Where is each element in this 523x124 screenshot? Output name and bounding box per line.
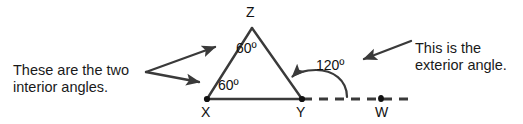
- exterior-angle-callout-line1: This is the: [415, 40, 507, 57]
- point-w-dot: [378, 95, 384, 102]
- vertex-label-y: Y: [296, 105, 305, 119]
- geometry-diagram: Z X Y W 60º 60º 120º These are the two i…: [0, 0, 523, 124]
- interior-angles-callout-line2: interior angles.: [13, 79, 129, 96]
- interior-angles-callout-line1: These are the two: [13, 62, 129, 79]
- angle-label-exterior: 120º: [316, 58, 344, 72]
- exterior-angle-callout-line2: exterior angle.: [415, 57, 507, 74]
- arrow-to-x-angle: [146, 72, 199, 82]
- point-x-dot: [204, 96, 210, 102]
- vertex-label-x: X: [201, 105, 210, 119]
- segment-zy: [252, 28, 302, 99]
- exterior-angle-arc: [293, 70, 348, 97]
- angle-label-z: 60º: [236, 41, 257, 55]
- exterior-angle-callout: This is the exterior angle.: [415, 40, 507, 74]
- angle-label-x: 60º: [218, 78, 239, 92]
- point-y-dot: [299, 96, 305, 102]
- arrow-to-exterior-angle: [364, 41, 411, 59]
- interior-angles-callout: These are the two interior angles.: [13, 62, 129, 96]
- arrow-to-z-angle: [146, 47, 215, 72]
- vertex-label-w: W: [375, 105, 388, 119]
- vertex-label-z: Z: [246, 5, 255, 19]
